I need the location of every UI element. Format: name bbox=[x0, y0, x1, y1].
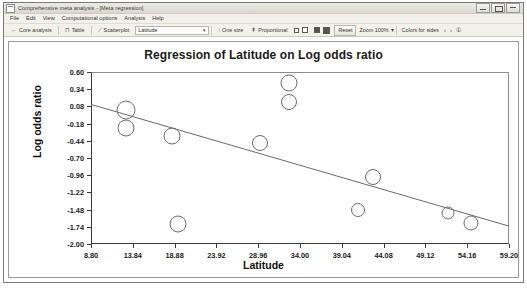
core-analysis-label: Core analysis bbox=[19, 25, 52, 35]
window-title: Comprehensive meta analysis - [Meta regr… bbox=[18, 4, 476, 12]
chevron-down-icon: ▾ bbox=[203, 28, 206, 33]
y-tick bbox=[87, 227, 91, 228]
x-tick bbox=[300, 244, 301, 248]
x-tick-label: 23.92 bbox=[207, 251, 225, 260]
data-point[interactable] bbox=[281, 94, 297, 110]
x-tick bbox=[91, 244, 92, 248]
y-tick-label: -0.18 bbox=[67, 119, 84, 128]
y-tick-label: 0.60 bbox=[70, 68, 84, 77]
info-icon[interactable]: ① bbox=[454, 26, 463, 35]
y-tick-label: 0.34 bbox=[70, 85, 84, 94]
x-tick-label: 8.80 bbox=[84, 251, 98, 260]
one-size-icon: ⁞ bbox=[218, 26, 220, 35]
chart-title: Regression of Latitude on Log odds ratio bbox=[9, 48, 518, 62]
y-tick bbox=[87, 106, 91, 107]
x-axis-label: Latitude bbox=[9, 259, 518, 271]
y-tick bbox=[87, 124, 91, 125]
one-size-label: One size bbox=[222, 25, 243, 35]
y-tick-label: -1.48 bbox=[67, 205, 84, 214]
menu-bar: File Edit View Computational options Ana… bbox=[4, 14, 523, 24]
app-window-icon bbox=[6, 4, 15, 13]
x-tick bbox=[258, 244, 259, 248]
x-tick bbox=[384, 244, 385, 248]
minimize-button[interactable] bbox=[476, 3, 490, 13]
toolbar-separator bbox=[396, 26, 397, 35]
colors-for-sides-button[interactable]: Colors for sides bbox=[399, 25, 442, 36]
toolbar-separator bbox=[211, 26, 212, 35]
proportional-label: Proportional bbox=[258, 25, 287, 35]
x-tick-label: 34.00 bbox=[291, 251, 309, 260]
y-tick-label: -2.00 bbox=[67, 240, 84, 249]
colors-for-sides-label: Colors for sides bbox=[402, 25, 439, 35]
y-tick bbox=[87, 72, 91, 73]
reset-button[interactable]: Reset bbox=[334, 25, 356, 36]
x-tick bbox=[342, 244, 343, 248]
menu-item-analysis[interactable]: Analysis bbox=[124, 14, 145, 23]
menu-item-computational-options[interactable]: Computational options bbox=[62, 14, 118, 23]
moderator-select[interactable]: Latitude ▾ bbox=[135, 26, 209, 35]
zoom-chevron-down-icon[interactable]: ▾ bbox=[391, 26, 394, 35]
menu-item-help[interactable]: Help bbox=[152, 14, 164, 23]
menu-item-file[interactable]: File bbox=[10, 14, 19, 23]
data-point[interactable] bbox=[463, 215, 478, 230]
table-button[interactable]: ⊓ Table bbox=[61, 25, 89, 36]
x-tick-label: 59.20 bbox=[500, 251, 518, 260]
y-tick-label: -1.74 bbox=[67, 222, 84, 231]
y-tick bbox=[87, 89, 91, 90]
window-title-bar[interactable]: Comprehensive meta analysis - [Meta regr… bbox=[4, 3, 523, 14]
x-tick bbox=[467, 244, 468, 248]
data-point[interactable] bbox=[116, 101, 135, 120]
marker-size-group bbox=[291, 25, 311, 36]
x-tick-label: 39.04 bbox=[333, 251, 351, 260]
toolbar-separator bbox=[58, 26, 59, 35]
x-tick-label: 28.96 bbox=[249, 251, 267, 260]
y-tick bbox=[87, 175, 91, 176]
x-tick-label: 18.88 bbox=[165, 251, 183, 260]
plot-area: 0.600.340.08-0.18-0.44-0.70-0.96-1.22-1.… bbox=[91, 72, 509, 244]
marker-size-small-icon[interactable] bbox=[294, 28, 299, 33]
chart-client-area: Regression of Latitude on Log odds ratio… bbox=[4, 37, 523, 282]
marker-fill-group bbox=[311, 25, 333, 36]
data-point[interactable] bbox=[351, 203, 365, 217]
x-tick-label: 44.08 bbox=[374, 251, 392, 260]
x-tick bbox=[133, 244, 134, 248]
core-analysis-button[interactable]: ← Core analysis bbox=[7, 25, 56, 36]
y-tick-label: 0.08 bbox=[70, 102, 84, 111]
back-arrow-icon: ← bbox=[11, 26, 17, 35]
zoom-control[interactable]: Zoom 100% bbox=[357, 25, 390, 36]
x-tick bbox=[216, 244, 217, 248]
proportional-button[interactable]: ⇞ Proportional bbox=[247, 25, 291, 36]
marker-fill-darker-icon[interactable] bbox=[323, 27, 330, 34]
x-tick bbox=[175, 244, 176, 248]
y-tick bbox=[87, 192, 91, 193]
data-point[interactable] bbox=[365, 169, 381, 185]
x-tick-label: 13.84 bbox=[124, 251, 142, 260]
toolbar-separator bbox=[91, 26, 92, 35]
menu-item-edit[interactable]: Edit bbox=[26, 14, 36, 23]
data-point[interactable] bbox=[164, 127, 181, 144]
marker-fill-dark-icon[interactable] bbox=[314, 27, 320, 33]
maximize-button[interactable] bbox=[491, 3, 505, 13]
marker-size-medium-icon[interactable] bbox=[302, 27, 308, 33]
y-tick-label: -0.96 bbox=[67, 171, 84, 180]
toolbar: ← Core analysis ⊓ Table ⟋ Scatterplot La… bbox=[4, 24, 523, 37]
chart-frame: Regression of Latitude on Log odds ratio… bbox=[8, 41, 519, 278]
proportional-icon: ⇞ bbox=[251, 26, 256, 35]
data-point[interactable] bbox=[170, 216, 187, 233]
close-button[interactable] bbox=[506, 3, 520, 13]
scatterplot-icon: ⟋ bbox=[98, 26, 102, 35]
table-label: Table bbox=[72, 25, 85, 35]
menu-item-view[interactable]: View bbox=[43, 14, 55, 23]
data-point[interactable] bbox=[252, 135, 268, 151]
y-tick-label: -0.44 bbox=[67, 136, 84, 145]
data-point[interactable] bbox=[442, 206, 455, 219]
x-tick-label: 54.16 bbox=[458, 251, 476, 260]
y-tick bbox=[87, 158, 91, 159]
data-point[interactable] bbox=[117, 120, 134, 137]
one-size-button[interactable]: ⁞ One size bbox=[214, 25, 247, 36]
y-tick-label: -1.22 bbox=[67, 188, 84, 197]
data-point[interactable] bbox=[281, 74, 298, 91]
scatterplot-button[interactable]: ⟋ Scatterplot bbox=[94, 25, 134, 36]
y-tick bbox=[87, 210, 91, 211]
y-tick bbox=[87, 141, 91, 142]
